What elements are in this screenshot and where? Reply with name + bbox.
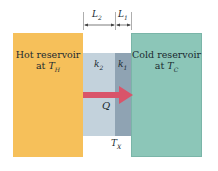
l2-label: L2: [92, 9, 102, 21]
heat-flow-label: Q: [102, 100, 110, 111]
l1-label: L1: [118, 9, 128, 21]
interface-temperature-label: TX: [111, 138, 121, 150]
l2-arrowhead-right-icon: [111, 24, 115, 27]
l1-arrowhead-left-icon: [116, 24, 120, 27]
l1-arrowhead-right-icon: [127, 24, 131, 27]
l2-arrowhead-left-icon: [84, 24, 88, 27]
dimension-and-flow-graphics: [0, 0, 218, 171]
heat-flow-arrowhead-icon: [119, 86, 133, 104]
heat-flow-arrow-shaft: [83, 92, 121, 98]
